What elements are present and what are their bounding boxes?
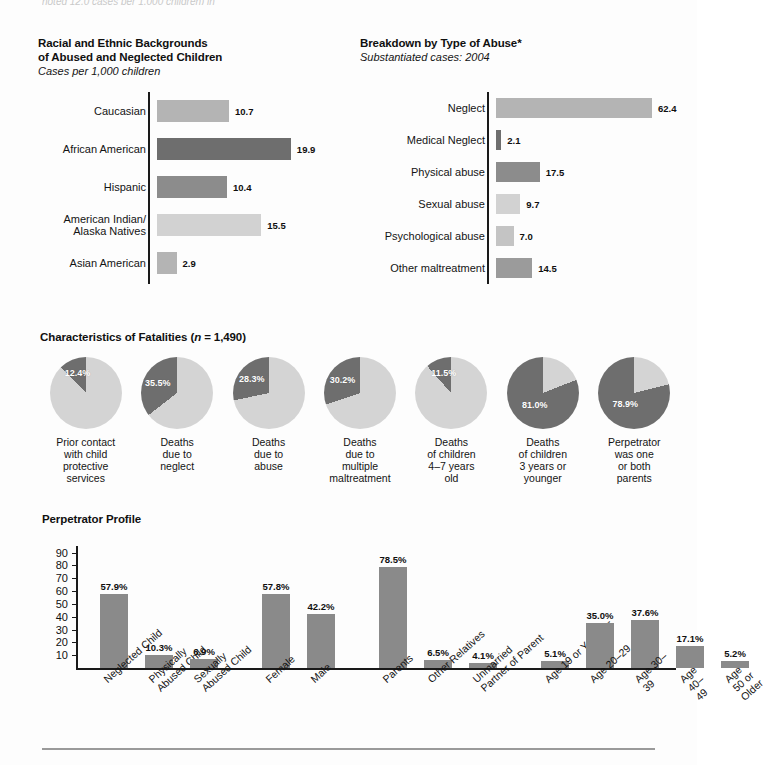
bar-track: 19.9 <box>157 138 343 160</box>
pies-title-main: Characteristics of Fatalities ( <box>40 331 194 343</box>
bar-category-label: Psychological abuse <box>360 230 494 243</box>
y-axis-tick-label: 20 <box>42 637 68 648</box>
y-axis-tick-label: 10 <box>42 650 68 661</box>
chart1-title-line2: of Abused and Neglected Children <box>38 50 343 64</box>
pie-item: 78.9%Perpetrator was one or both parents <box>589 357 680 484</box>
chart2-header: Breakdown by Type of Abuse* Substantiate… <box>360 36 690 64</box>
bar-fill <box>496 194 520 214</box>
bar-value-label: 15.5 <box>267 220 286 231</box>
bar-track: 10.7 <box>157 100 343 122</box>
bar-row: Medical Neglect2.1 <box>360 124 690 156</box>
pie-chart: 11.5% <box>415 357 487 429</box>
bar-category-label: Physical abuse <box>360 166 494 179</box>
pie-item: 28.3%Deaths due to abuse <box>223 357 314 484</box>
bar-row: American Indian/ Alaska Natives15.5 <box>38 206 343 244</box>
pie-chart: 35.5% <box>141 357 213 429</box>
pie-caption: Deaths due to neglect <box>131 436 222 472</box>
bar-track: 2.1 <box>496 130 690 150</box>
bar-column <box>307 614 335 668</box>
bar-value-label: 7.0 <box>520 231 533 242</box>
pie-value-label: 81.0% <box>522 400 548 410</box>
pie-item: 35.5%Deaths due to neglect <box>131 357 222 484</box>
bar-category-label: Caucasian <box>38 105 155 118</box>
y-axis-line <box>76 546 78 668</box>
bar-value-label: 14.5 <box>538 263 557 274</box>
bar-fill <box>157 176 227 198</box>
bar-value-label: 57.8% <box>254 581 298 592</box>
bar-row: Psychological abuse7.0 <box>360 220 690 252</box>
chart-breakdown-type-of-abuse: Breakdown by Type of Abuse* Substantiate… <box>360 36 690 284</box>
pie-caption: Deaths due to multiple maltreatment <box>314 436 405 484</box>
bar-value-label: 9.7 <box>526 199 539 210</box>
pie-value-label: 30.2% <box>330 375 356 385</box>
pie-caption: Prior contact with child protective serv… <box>40 436 131 484</box>
pie-circle <box>324 357 396 429</box>
bar-fill <box>496 162 540 182</box>
bar-value-label: 2.9 <box>183 258 196 269</box>
pie-chart: 12.4% <box>50 357 122 429</box>
y-axis-tick-label: 80 <box>42 560 68 571</box>
bar-category-label: Asian American <box>38 257 155 270</box>
bar-value-label: 2.1 <box>507 135 520 146</box>
pie-value-label: 35.5% <box>145 378 171 388</box>
bar-fill <box>496 258 532 278</box>
pie-caption: Perpetrator was one or both parents <box>589 436 680 484</box>
x-axis-category-label: Age 40–49 <box>677 663 715 702</box>
pie-value-label: 11.5% <box>431 368 456 378</box>
bar-fill <box>496 226 514 246</box>
chart1-title-line1: Racial and Ethnic Backgrounds <box>38 36 343 50</box>
pie-item: 12.4%Prior contact with child protective… <box>40 357 131 484</box>
pie-chart: 30.2% <box>324 357 396 429</box>
pie-circle <box>598 357 670 429</box>
pie-circle <box>233 357 305 429</box>
bar-fill <box>157 214 261 236</box>
bar-value-label: 10.4 <box>233 182 252 193</box>
y-axis-tick-label: 30 <box>42 625 68 636</box>
bar-category-label: African American <box>38 143 155 156</box>
bar-track: 62.4 <box>496 98 690 118</box>
y-axis-tick-label: 90 <box>42 548 68 559</box>
bar-value-label: 57.9% <box>92 581 136 592</box>
bar-row: African American19.9 <box>38 130 343 168</box>
bar-value-label: 5.2% <box>713 648 757 659</box>
footer-divider <box>42 748 655 750</box>
bar-category-label: Hispanic <box>38 181 155 194</box>
bar-track: 15.5 <box>157 214 343 236</box>
bar-row: Physical abuse17.5 <box>360 156 690 188</box>
pies-title-tail: = 1,490) <box>201 331 246 343</box>
bar-column <box>379 567 407 668</box>
chart-characteristics-of-fatalities: Characteristics of Fatalities (n = 1,490… <box>40 330 680 484</box>
bar-track: 14.5 <box>496 258 690 278</box>
chart1-subtitle: Cases per 1,000 children <box>38 64 343 78</box>
bar-row: Other maltreatment14.5 <box>360 252 690 284</box>
chart-racial-ethnic-backgrounds: Racial and Ethnic Backgrounds of Abused … <box>38 36 343 284</box>
y-axis-tick-label: 70 <box>42 573 68 584</box>
bar-category-label: Neglect <box>360 102 494 115</box>
bar-fill <box>157 100 229 122</box>
pie-value-label: 78.9% <box>613 399 639 409</box>
bar-value-label: 17.5 <box>546 167 565 178</box>
pie-chart: 28.3% <box>233 357 305 429</box>
chart1-plot-area: Caucasian10.7African American19.9Hispani… <box>38 92 343 284</box>
bar-fill <box>157 138 291 160</box>
bar-row: Asian American2.9 <box>38 244 343 282</box>
pie-circle <box>141 357 213 429</box>
pie-chart: 81.0% <box>507 357 579 429</box>
bar-fill <box>157 252 177 274</box>
vbar-title: Perpetrator Profile <box>42 512 682 526</box>
bar-track: 9.7 <box>496 194 690 214</box>
y-axis-tick-label: 50 <box>42 599 68 610</box>
pie-caption: Deaths of children 4–7 years old <box>406 436 497 484</box>
bar-row: Sexual abuse9.7 <box>360 188 690 220</box>
pie-caption: Deaths of children 3 years or younger <box>497 436 588 484</box>
bar-track: 2.9 <box>157 252 343 274</box>
pie-value-label: 12.4% <box>65 368 91 378</box>
bar-row: Neglect62.4 <box>360 92 690 124</box>
bar-track: 7.0 <box>496 226 690 246</box>
chart-perpetrator-profile: Perpetrator Profile 90807060504030201057… <box>42 512 682 765</box>
pie-chart: 78.9% <box>598 357 670 429</box>
bar-category-label: Medical Neglect <box>360 134 494 147</box>
bar-value-label: 19.9 <box>297 144 316 155</box>
chart2-title: Breakdown by Type of Abuse* <box>360 36 690 50</box>
